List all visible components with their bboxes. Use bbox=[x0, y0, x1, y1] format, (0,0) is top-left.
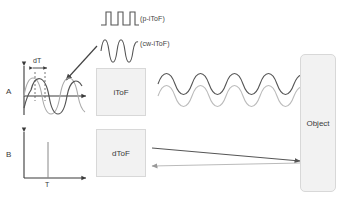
itof-block-label: iToF bbox=[113, 88, 128, 97]
panel-a-label: A bbox=[6, 87, 11, 96]
continuous-wave-label: (cw-iToF) bbox=[140, 40, 170, 47]
itof-block[interactable]: iToF bbox=[96, 68, 146, 116]
tof-principle-diagram: (p-iToF) (cw-iToF) A dT B T iToF dToF Ob… bbox=[0, 0, 340, 201]
itof-wave-path bbox=[158, 74, 301, 107]
pulsed-waveform-label: (p-iToF) bbox=[140, 15, 165, 22]
dtof-outgoing-ray bbox=[152, 148, 300, 161]
dtof-block[interactable]: dToF bbox=[96, 129, 146, 177]
dtof-block-label: dToF bbox=[112, 149, 130, 158]
callout-arrow bbox=[66, 46, 97, 80]
continuous-wave-glyph bbox=[101, 40, 138, 63]
object-block[interactable]: Object bbox=[300, 54, 336, 192]
panel-b-axes bbox=[24, 132, 86, 178]
panel-b-t-label: T bbox=[45, 181, 49, 188]
pulsed-waveform-glyph bbox=[101, 12, 139, 25]
panel-b-label: B bbox=[6, 150, 11, 159]
panel-a-dt-label: dT bbox=[33, 57, 41, 64]
dtof-returning-ray bbox=[152, 163, 300, 166]
diagram-vector-layer bbox=[0, 0, 340, 201]
object-block-label: Object bbox=[306, 119, 329, 128]
